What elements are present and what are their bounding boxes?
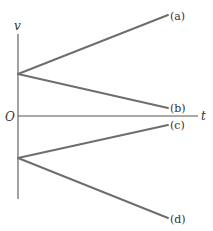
t-axis-label: t — [201, 109, 206, 123]
origin-label: O — [5, 110, 15, 124]
line-d-label: (d) — [170, 213, 186, 226]
line-a-label: (a) — [170, 10, 185, 23]
line-a — [18, 15, 168, 74]
v-axis-label: v — [14, 19, 21, 33]
line-c-label: (c) — [170, 119, 185, 132]
line-d — [18, 158, 168, 218]
line-c — [18, 125, 168, 158]
velocity-time-diagram: v t O (a) (b) (c) (d) — [0, 0, 213, 231]
line-b-label: (b) — [170, 102, 186, 115]
line-b — [18, 74, 168, 108]
